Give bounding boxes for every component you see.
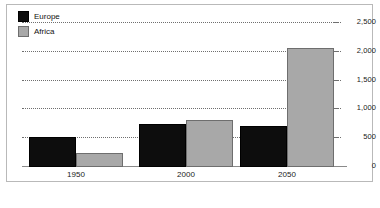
ytick-dash-2000	[334, 51, 341, 52]
bar-europe-1950	[29, 137, 76, 167]
chart-legend: Europe Africa	[18, 10, 60, 40]
legend-label-africa: Africa	[34, 27, 54, 36]
legend-item-europe: Europe	[18, 10, 60, 23]
legend-label-europe: Europe	[34, 12, 60, 21]
legend-swatch-europe-icon	[18, 11, 29, 22]
ytick-label-2500: 2,500	[342, 18, 376, 26]
xtick-label-2050: 2050	[247, 170, 327, 180]
bar-africa-2000	[186, 120, 233, 167]
bar-chart-figure: 2,500 2,000 1,500 1,000 500 0 1950 2000 …	[0, 0, 380, 208]
ytick-label-2000: 2,000	[342, 47, 376, 55]
ytick-dash-2500	[334, 22, 341, 23]
bar-africa-1950	[76, 153, 123, 167]
ytick-label-500: 500	[342, 133, 376, 141]
ytick-dash-500	[334, 137, 341, 138]
xtick-label-1950: 1950	[36, 170, 116, 180]
xtick-label-2000: 2000	[146, 170, 226, 180]
bar-africa-2050	[287, 48, 334, 167]
ytick-label-1500: 1,500	[342, 76, 376, 84]
ytick-dash-1500	[334, 80, 341, 81]
ytick-label-0: 0	[342, 162, 376, 170]
gridline-2500	[22, 22, 338, 23]
bar-europe-2000	[139, 124, 186, 167]
ytick-label-1000: 1,000	[342, 104, 376, 112]
ytick-dash-1000	[334, 108, 341, 109]
bar-europe-2050	[240, 126, 287, 167]
legend-item-africa: Africa	[18, 25, 60, 38]
legend-swatch-africa-icon	[18, 26, 29, 37]
